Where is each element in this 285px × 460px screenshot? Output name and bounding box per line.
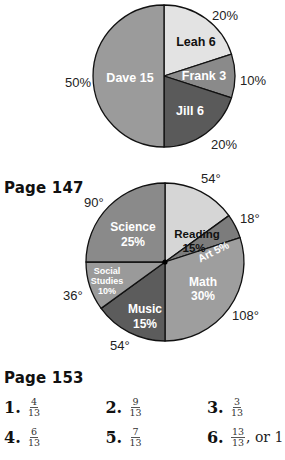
pct-frank: 10%: [240, 73, 266, 88]
answer-suffix: , or 1: [246, 429, 283, 445]
deg-reading: 54°: [201, 171, 221, 186]
numerator: 9: [131, 397, 139, 408]
answer-number: 1.: [4, 398, 28, 417]
pct-jill: 20%: [211, 137, 237, 152]
answer-number: 5.: [105, 428, 129, 447]
label-math-pct: 30%: [191, 289, 215, 303]
answer-4: 4. 613: [4, 427, 105, 448]
deg-social: 36°: [63, 288, 83, 303]
numerator: 7: [131, 427, 139, 438]
label-jill: Jill 6: [176, 104, 204, 118]
fraction: 313: [231, 397, 243, 418]
answer-1: 1. 413: [4, 397, 105, 418]
label-math: Math: [189, 275, 217, 289]
fraction: 913: [129, 397, 141, 418]
label-science: Science: [110, 220, 156, 234]
answer-2: 2. 913: [105, 397, 206, 418]
label-music-pct: 15%: [133, 317, 157, 331]
pct-leah: 20%: [212, 8, 238, 23]
page-147-heading: Page 147: [4, 179, 84, 197]
denominator: 13: [129, 438, 141, 448]
label-social-pct: 10%: [98, 286, 116, 296]
answers-grid: 1. 413 2. 913 3. 313 4. 613 5. 713 6. 13…: [4, 392, 285, 452]
center-dot: [162, 259, 167, 264]
denominator: 13: [232, 438, 244, 448]
label-science-pct: 25%: [121, 235, 145, 249]
denominator: 13: [28, 438, 40, 448]
numerator: 3: [233, 397, 241, 408]
deg-art: 18°: [240, 211, 260, 226]
fraction: 613: [28, 427, 40, 448]
numerator: 13: [231, 427, 245, 438]
answer-number: 3.: [207, 398, 231, 417]
answer-number: 4.: [4, 428, 28, 447]
answer-number: 6.: [207, 428, 231, 447]
deg-math: 108°: [232, 308, 259, 323]
deg-science: 90°: [84, 195, 104, 210]
pie-chart-scores: Leah 6 Frank 3 Jill 6 Dave 15 20% 10% 20…: [0, 0, 285, 460]
answer-6: 6. 1313 , or 1: [207, 427, 285, 448]
numerator: 6: [30, 427, 38, 438]
fraction: 713: [129, 427, 141, 448]
denominator: 13: [231, 408, 243, 418]
denominator: 13: [28, 408, 40, 418]
answer-number: 2.: [105, 398, 129, 417]
label-frank: Frank 3: [182, 69, 227, 83]
fraction: 413: [28, 397, 40, 418]
answers-row: 4. 613 5. 713 6. 1313 , or 1: [4, 422, 285, 452]
page-153-heading: Page 153: [4, 369, 84, 387]
deg-music: 54°: [110, 338, 130, 353]
denominator: 13: [129, 408, 141, 418]
label-reading: Reading: [174, 228, 219, 240]
label-music: Music: [128, 302, 162, 316]
answer-5: 5. 713: [105, 427, 206, 448]
fraction: 1313: [231, 427, 245, 448]
label-dave: Dave 15: [106, 71, 153, 85]
answer-3: 3. 313: [207, 397, 285, 418]
answers-row: 1. 413 2. 913 3. 313: [4, 392, 285, 422]
label-studies: Studies: [91, 276, 124, 286]
label-social: Social: [94, 266, 121, 276]
pct-dave: 50%: [65, 75, 91, 90]
label-leah: Leah 6: [176, 35, 216, 49]
numerator: 4: [30, 397, 38, 408]
